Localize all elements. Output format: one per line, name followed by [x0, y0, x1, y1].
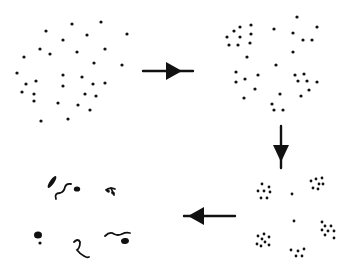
particle-dot — [268, 244, 271, 247]
particle-dot — [248, 41, 251, 44]
particle-dot — [61, 84, 64, 87]
particle-dot — [321, 177, 324, 180]
particle-dot — [293, 220, 296, 223]
particle-dot — [301, 38, 304, 41]
aggregate-blob — [46, 175, 58, 189]
particle-dot — [225, 35, 228, 38]
particle-dot — [312, 187, 315, 190]
particle-dot — [234, 70, 237, 73]
particle-dot — [103, 81, 106, 84]
stage-tight-clusters — [256, 177, 336, 258]
particle-dot — [256, 243, 259, 246]
stage-grouping-particles — [225, 15, 318, 111]
aggregate-blob — [34, 231, 42, 238]
particle-dot — [263, 190, 266, 193]
particle-dot — [238, 25, 241, 28]
particle-dot — [301, 255, 304, 258]
particle-dot — [99, 20, 102, 23]
particle-dot — [310, 180, 313, 183]
particle-dot — [234, 80, 237, 83]
particle-dot — [315, 178, 318, 181]
particle-dot — [295, 15, 298, 18]
particle-dot — [321, 221, 324, 224]
particle-dot — [291, 50, 294, 53]
particle-dot — [253, 87, 256, 90]
arrow-3-to-4 — [184, 207, 235, 225]
arrow-head-icon — [273, 145, 289, 162]
particle-dot — [66, 117, 69, 120]
particle-dot — [243, 77, 246, 80]
particle-dot — [257, 190, 260, 193]
particle-dot — [333, 230, 336, 233]
particle-dot — [302, 72, 305, 75]
particle-dot — [321, 229, 324, 232]
particle-dot — [268, 186, 271, 189]
particle-dot — [305, 79, 308, 82]
particle-dot — [317, 188, 320, 191]
particle-dot — [330, 225, 333, 228]
particle-dot — [297, 250, 300, 253]
process-arrows — [143, 62, 289, 225]
particle-dot — [85, 33, 88, 36]
aggregate-strand — [105, 233, 130, 236]
particle-dot — [70, 22, 73, 25]
particle-dot — [274, 63, 277, 66]
particle-dot — [261, 238, 264, 241]
particle-dot — [94, 94, 97, 97]
particle-dot — [80, 75, 83, 78]
particle-dot — [269, 191, 272, 194]
particle-dot — [44, 29, 47, 32]
particle-dot — [333, 237, 336, 240]
particle-dot — [327, 230, 330, 233]
particle-dot — [22, 55, 25, 58]
particle-dot — [88, 108, 91, 111]
particle-dot — [32, 99, 35, 102]
arrow-head-icon — [166, 62, 182, 80]
particle-dot — [32, 92, 35, 95]
particle-dot — [295, 255, 298, 258]
particle-dot — [20, 90, 23, 93]
aggregate-blob — [38, 241, 41, 244]
particle-dot — [260, 245, 263, 248]
aggregate-blob — [121, 237, 130, 244]
particle-dot — [322, 183, 325, 186]
particle-dot — [266, 197, 269, 200]
stage-dispersed-particles — [15, 20, 128, 122]
particle-dot — [245, 55, 248, 58]
particle-dot — [103, 47, 106, 50]
particle-dot — [75, 50, 78, 53]
particle-dot — [38, 47, 41, 50]
particle-dot — [238, 35, 241, 38]
particle-dot — [56, 101, 59, 104]
particle-dot — [318, 183, 321, 186]
particle-dot — [293, 73, 296, 76]
diagram-canvas — [0, 0, 353, 272]
particle-dot — [236, 43, 239, 46]
particle-dot — [263, 233, 266, 236]
particle-dot — [48, 52, 51, 55]
particle-dot — [76, 103, 79, 106]
particle-dot — [290, 249, 293, 252]
particle-dot — [125, 32, 128, 35]
particle-dot — [296, 79, 299, 82]
particle-dot — [232, 29, 235, 32]
particle-dot — [83, 92, 86, 95]
particle-dot — [120, 63, 123, 66]
particle-dot — [91, 82, 94, 85]
particle-dot — [272, 27, 275, 30]
aggregate-blob — [74, 186, 80, 191]
particle-dot — [61, 73, 64, 76]
arrow-1-to-2 — [143, 62, 193, 80]
stage-merged-aggregates — [34, 175, 130, 257]
aggregate-strand — [56, 184, 72, 199]
particle-dot — [261, 183, 264, 186]
particle-dot — [15, 71, 18, 74]
particle-dot — [291, 193, 294, 196]
particle-dot — [303, 248, 306, 251]
particle-dot — [34, 79, 37, 82]
particle-dot — [315, 80, 318, 83]
particle-dot — [278, 92, 281, 95]
particle-dot — [324, 225, 327, 228]
arrow-head-icon — [188, 207, 204, 225]
particle-dot — [307, 88, 310, 91]
